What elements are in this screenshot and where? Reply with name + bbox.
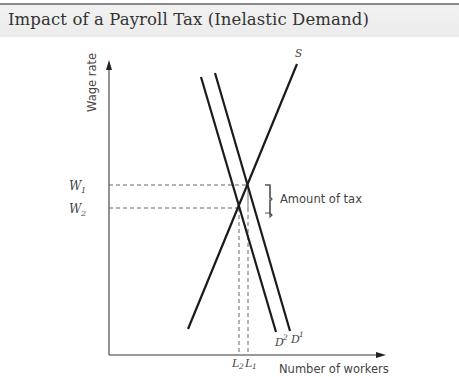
guide-lines xyxy=(109,185,248,355)
payroll-tax-diagram: Wage rate Number of workers S D 2 D 1 W … xyxy=(0,0,459,377)
x-axis-arrow-icon xyxy=(376,352,386,358)
w1-label-sub: 1 xyxy=(81,186,86,195)
w1-label: W 1 xyxy=(69,179,86,195)
axes xyxy=(106,60,386,358)
tax-bracket xyxy=(265,185,272,217)
w2-label: W 2 xyxy=(69,202,86,218)
d1-label-sup: 1 xyxy=(299,330,304,339)
bracket-body xyxy=(265,185,272,213)
l2-label: L 2 xyxy=(231,357,244,371)
y-axis-label: Wage rate xyxy=(85,53,99,112)
y-axis-arrow-icon xyxy=(106,60,112,70)
demand-curve-d1 xyxy=(215,73,290,331)
supply-label: S xyxy=(295,47,302,59)
l2-label-sub: 2 xyxy=(238,362,244,371)
d1-label: D 1 xyxy=(290,330,304,346)
bracket-icon xyxy=(265,185,272,217)
x-axis-label: Number of workers xyxy=(279,362,389,376)
d2-label-sup: 2 xyxy=(282,333,288,342)
w2-label-sub: 2 xyxy=(80,209,86,218)
tax-annotation: Amount of tax xyxy=(280,192,362,206)
l1-label: L 1 xyxy=(244,357,257,371)
d2-label: D 2 xyxy=(274,333,288,349)
l1-label-sub: 1 xyxy=(252,362,257,371)
